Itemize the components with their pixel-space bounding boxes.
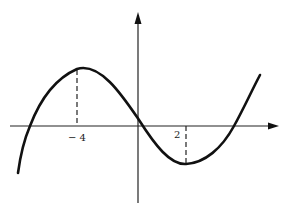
x-tick-label-2: 2 xyxy=(174,129,180,140)
x-tick-label-neg4: − 4 xyxy=(68,132,86,143)
cubic-curve xyxy=(18,68,260,173)
cubic-function-graph: − 4 2 xyxy=(0,0,297,212)
y-axis-arrow-icon xyxy=(135,12,142,24)
x-axis-arrow-icon xyxy=(268,123,279,130)
